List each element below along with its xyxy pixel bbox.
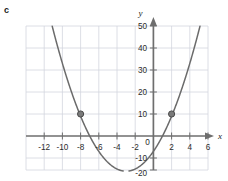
- y-tick-label--20: -20: [135, 169, 147, 178]
- x-tick-label-0: 0: [145, 138, 150, 147]
- y-tick-label-30: 30: [138, 66, 148, 75]
- y-axis-label: y: [138, 8, 143, 18]
- x-tick-label--8: -8: [77, 143, 85, 152]
- y-tick-label-40: 40: [138, 44, 148, 53]
- x-tick-label--4: -4: [113, 143, 121, 152]
- y-tick-label-50: 50: [138, 22, 148, 31]
- y-tick-label-10: 10: [138, 110, 148, 119]
- x-tick-label-4: 4: [188, 143, 193, 152]
- y-axis-arrow: [150, 17, 157, 26]
- coordinate-plane: -12 -10 -8 -6 -4 -2 0 2 4 6 50 40 30 20 …: [0, 0, 228, 181]
- x-tick-label-6: 6: [206, 143, 211, 152]
- y-tick-label--10: -10: [135, 154, 147, 163]
- plotted-point-1: [169, 111, 175, 117]
- x-tick-label--2: -2: [132, 143, 140, 152]
- x-tick-label--6: -6: [95, 143, 103, 152]
- x-axis-arrow: [205, 132, 214, 139]
- plotted-point-0: [78, 111, 84, 117]
- graph-figure: c: [0, 0, 228, 181]
- x-axis-label: x: [217, 131, 222, 141]
- x-tick-label-2: 2: [169, 143, 174, 152]
- y-tick-label-20: 20: [138, 88, 148, 97]
- x-tick-label--10: -10: [56, 143, 68, 152]
- x-tick-label--12: -12: [38, 143, 50, 152]
